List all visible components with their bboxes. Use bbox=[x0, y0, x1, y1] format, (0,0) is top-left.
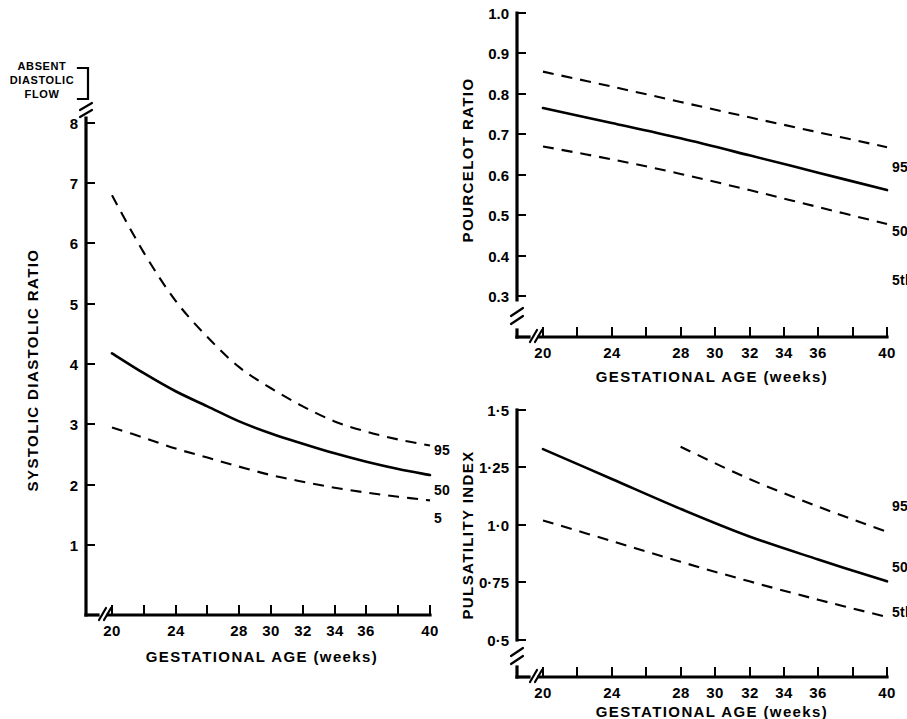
y-tick-label: 0.9 bbox=[488, 45, 509, 62]
y-tick-label: 0.6 bbox=[488, 167, 509, 184]
x-axis-title: GESTATIONAL AGE (weeks) bbox=[596, 703, 829, 719]
y-tick-label: 7 bbox=[70, 175, 78, 192]
curve-95th-percentile bbox=[112, 195, 430, 445]
y-tick-label: 6 bbox=[70, 235, 78, 252]
chart-systolic-diastolic-ratio: 8 7 6 5 4 3 2 1 bbox=[0, 0, 460, 690]
y-tick-label: 8 bbox=[70, 115, 78, 132]
y-tick-label: 2 bbox=[70, 477, 78, 494]
curve-label-95th: 95th bbox=[892, 498, 907, 514]
curve-5th-percentile bbox=[112, 427, 430, 500]
y-tick-label: 1 bbox=[70, 537, 78, 554]
x-tick-label: 24 bbox=[167, 622, 185, 639]
x-tick-label: 20 bbox=[103, 622, 121, 639]
note-line-2: DIASTOLIC bbox=[10, 74, 74, 86]
x-tick-label: 24 bbox=[603, 344, 621, 361]
curve-label-50th: 50th bbox=[892, 559, 907, 575]
y-tick-label: 3 bbox=[70, 416, 78, 433]
curve-5th-percentile bbox=[543, 146, 887, 224]
curve-50th-percentile bbox=[543, 449, 887, 581]
curve-label-5th: 5th bbox=[892, 604, 907, 620]
x-tick-label: 36 bbox=[357, 622, 375, 639]
y-tick-label: 0.4 bbox=[488, 248, 510, 265]
curve-95th-percentile bbox=[543, 72, 887, 148]
y-axis-title: SYSTOLIC DIASTOLIC RATIO bbox=[24, 249, 41, 492]
x-tick-label: 30 bbox=[706, 344, 724, 361]
x-axis-tick-labels: 20 24 28 30 32 34 36 40 bbox=[534, 684, 896, 701]
x-tick-label: 28 bbox=[672, 684, 690, 701]
x-tick-label: 30 bbox=[262, 622, 280, 639]
x-tick-label: 36 bbox=[809, 344, 827, 361]
curve-label-95th: 95th bbox=[892, 159, 907, 175]
x-tick-label: 40 bbox=[878, 684, 896, 701]
absent-diastolic-flow-bracket bbox=[78, 68, 88, 99]
x-tick-label: 32 bbox=[294, 622, 312, 639]
x-tick-label: 40 bbox=[421, 622, 439, 639]
curve-95th-percentile bbox=[681, 447, 887, 532]
curve-label-5th: 5th bbox=[892, 272, 907, 288]
y-axis-break-mark bbox=[511, 648, 523, 664]
y-tick-label: 1.0 bbox=[488, 5, 509, 22]
x-tick-label: 30 bbox=[706, 684, 724, 701]
x-axis-tick-labels: 20 24 28 30 32 34 36 40 bbox=[534, 344, 896, 361]
x-tick-label: 28 bbox=[230, 622, 248, 639]
x-axis-tick-labels: 20 24 28 30 32 34 36 40 bbox=[103, 622, 439, 639]
note-line-3: FLOW bbox=[25, 88, 60, 100]
y-tick-label: 0·75 bbox=[479, 574, 509, 591]
curve-label-50th: 50th bbox=[892, 223, 907, 239]
x-tick-label: 32 bbox=[741, 684, 759, 701]
x-axis-title: GESTATIONAL AGE (weeks) bbox=[596, 368, 829, 385]
y-tick-label: 0.5 bbox=[488, 207, 509, 224]
y-tick-label: 1·0 bbox=[487, 517, 509, 534]
y-tick-label: 4 bbox=[70, 356, 79, 373]
curve-50th-percentile bbox=[112, 353, 430, 475]
y-axis-title: PULSATILITY INDEX bbox=[459, 450, 476, 619]
y-axis-tick-labels: 1·5 1·25 1·0 0·75 0·5 bbox=[479, 402, 509, 649]
y-tick-label: 0.8 bbox=[488, 86, 509, 103]
x-tick-label: 34 bbox=[326, 622, 344, 639]
chart-pourcelot-ratio: 1.0 0.9 0.8 0.7 0.6 0.5 0.4 0.3 bbox=[440, 0, 907, 390]
x-tick-label: 24 bbox=[603, 684, 621, 701]
y-tick-label: 1·25 bbox=[479, 459, 509, 476]
y-axis-title: POURCELOT RATIO bbox=[459, 78, 476, 243]
chart-pulsatility-index: 1·5 1·25 1·0 0·75 0·5 20 bbox=[440, 395, 907, 719]
x-tick-label: 40 bbox=[878, 344, 896, 361]
y-axis-tick-labels: 1.0 0.9 0.8 0.7 0.6 0.5 0.4 0.3 bbox=[488, 5, 510, 305]
x-tick-label: 32 bbox=[741, 344, 759, 361]
x-axis-title: GESTATIONAL AGE (weeks) bbox=[146, 648, 379, 665]
y-tick-label: 0·5 bbox=[487, 632, 509, 649]
x-tick-label: 20 bbox=[534, 684, 552, 701]
x-tick-label: 20 bbox=[534, 344, 552, 361]
x-tick-label: 28 bbox=[672, 344, 690, 361]
y-tick-label: 1·5 bbox=[487, 402, 509, 419]
x-tick-label: 36 bbox=[809, 684, 827, 701]
note-line-1: ABSENT bbox=[18, 60, 67, 72]
y-axis-break-mark bbox=[80, 103, 92, 117]
curve-5th-percentile bbox=[543, 520, 887, 617]
y-axis-tick-labels: 8 7 6 5 4 3 2 1 bbox=[70, 115, 79, 554]
y-tick-label: 0.7 bbox=[488, 126, 509, 143]
x-tick-label: 34 bbox=[775, 684, 793, 701]
y-tick-label: 5 bbox=[70, 296, 78, 313]
y-axis-break-mark bbox=[511, 308, 523, 324]
figure-doppler-reference-charts: 8 7 6 5 4 3 2 1 bbox=[0, 0, 907, 719]
x-tick-label: 34 bbox=[775, 344, 793, 361]
y-tick-label: 0.3 bbox=[488, 288, 509, 305]
curve-50th-percentile bbox=[543, 108, 887, 190]
absent-diastolic-flow-label: ABSENT DIASTOLIC FLOW bbox=[10, 60, 74, 100]
